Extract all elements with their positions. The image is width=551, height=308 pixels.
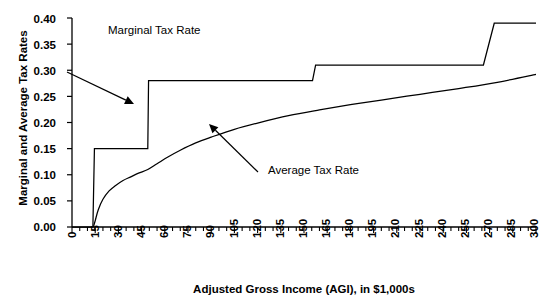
y-tick-label-0.35: 0.35 [22,39,56,51]
x-tick-label-210: 210 [389,219,401,238]
x-tick-label-60: 60 [158,225,170,238]
y-tick-label-0.10: 0.10 [22,169,56,181]
x-tick-label-15: 15 [89,225,101,238]
y-tick-label-0.20: 0.20 [22,117,56,129]
x-tick-label-165: 165 [320,219,332,238]
x-tick-label-135: 135 [274,219,286,238]
x-tick-label-180: 180 [343,219,355,238]
y-tick-label-0.40: 0.40 [22,13,56,25]
average-tax-rate-annotation-label: Average Tax Rate [268,164,359,176]
x-tick-label-0: 0 [66,232,78,238]
y-tick-label-0.05: 0.05 [22,195,56,207]
marginal-tax-rate-line [72,23,536,227]
annotation-arrows [67,72,258,172]
x-tick-label-30: 30 [112,225,124,238]
y-tick-label-0.15: 0.15 [22,143,56,155]
x-tick-label-105: 105 [228,219,240,238]
x-tick-label-285: 285 [505,219,517,238]
x-tick-label-300: 300 [528,219,540,238]
y-tick-marks [67,18,72,227]
x-tick-label-195: 195 [366,219,378,238]
plot-svg [0,0,551,308]
average-tax-rate-line [93,74,536,227]
x-tick-label-255: 255 [459,219,471,238]
x-tick-label-150: 150 [297,219,309,238]
x-tick-label-240: 240 [436,219,448,238]
axes-group [67,18,536,233]
x-tick-label-225: 225 [413,219,425,238]
tax-rate-chart: Marginal and Average Tax Rates Adjusted … [0,0,551,308]
y-tick-label-0.25: 0.25 [22,91,56,103]
x-tick-label-45: 45 [135,225,147,238]
marginal-tax-rate-annotation-label: Marginal Tax Rate [108,24,200,36]
y-tick-label-0.00: 0.00 [22,221,56,233]
x-tick-label-75: 75 [181,225,193,238]
x-tick-label-270: 270 [482,219,494,238]
x-tick-label-90: 90 [204,225,216,238]
x-tick-label-120: 120 [251,219,263,238]
x-axis-label: Adjusted Gross Income (AGI), in $1,000s [72,283,536,295]
y-tick-label-0.30: 0.30 [22,65,56,77]
